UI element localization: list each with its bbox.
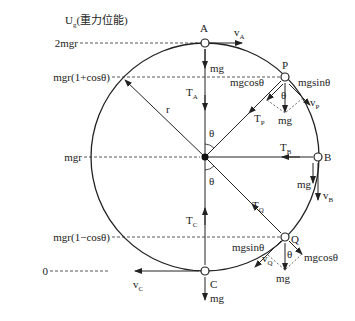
y-axis-title: Ug(重力位能): [65, 13, 128, 29]
label-tq: TQ: [252, 199, 264, 214]
point-b: [314, 153, 322, 161]
point-p: [281, 73, 289, 81]
level-mgr-1-minus-cos: mgr(1−cosθ): [53, 231, 110, 244]
point-q: [281, 233, 289, 241]
label-tp: TP: [254, 112, 265, 127]
label-vb: vB: [323, 189, 334, 204]
point-c: [201, 267, 209, 275]
diagram-canvas: Ug(重力位能) 2mgr mgr(1+cosθ) mgr mgr(1−cosθ…: [0, 0, 355, 321]
label-mg-p: mg: [278, 114, 293, 126]
label-c: C: [210, 278, 217, 290]
theta-lower: θ: [209, 175, 214, 187]
label-mgcos-p: mgcosθ: [230, 76, 264, 88]
label-va: vA: [234, 26, 245, 41]
label-tb: TB: [280, 141, 292, 156]
label-mg-c: mg: [210, 292, 225, 304]
level-mgr-1-plus-cos: mgr(1+cosθ): [53, 71, 110, 84]
label-vq: vQ: [262, 252, 273, 267]
level-mgr: mgr: [64, 151, 82, 163]
vertical-circle-diagram: Ug(重力位能) 2mgr mgr(1+cosθ) mgr mgr(1−cosθ…: [0, 0, 355, 321]
label-ta: TA: [186, 86, 198, 101]
radius-line: [125, 80, 205, 157]
point-a: [201, 39, 209, 47]
radius-p: [205, 81, 281, 157]
level-2mgr: 2mgr: [55, 37, 79, 49]
level-zero: 0: [43, 265, 49, 277]
label-tc: TC: [186, 214, 198, 229]
label-q: Q: [291, 233, 299, 245]
theta-p: θ: [281, 89, 286, 101]
radius-q: [205, 157, 281, 233]
theta-arc-upper: [205, 144, 214, 148]
label-mgcos-q: mgcosθ: [304, 251, 338, 263]
label-a: A: [200, 22, 208, 34]
center-pivot: [202, 154, 209, 161]
theta-q: θ: [287, 248, 292, 260]
label-b: B: [324, 151, 331, 163]
label-mg-q: mg: [276, 272, 291, 284]
label-r: r: [166, 103, 170, 115]
theta-arc-lower: [205, 166, 214, 170]
label-mg-b: mg: [297, 178, 312, 190]
label-mgsin-p: mgsinθ: [298, 76, 330, 88]
label-mg-a: mg: [210, 62, 225, 74]
label-vp: vP: [310, 96, 320, 111]
theta-upper: θ: [209, 127, 214, 139]
label-vc: vC: [133, 278, 144, 293]
label-p: P: [282, 59, 288, 71]
label-mgsin-q: mgsinθ: [232, 241, 264, 253]
